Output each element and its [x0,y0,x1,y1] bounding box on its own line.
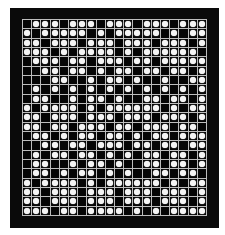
board-cell[interactable] [23,132,32,141]
board-cell[interactable] [97,141,106,150]
board-cell[interactable] [170,20,179,29]
board-cell[interactable] [41,57,50,66]
board-cell[interactable] [78,160,87,169]
board-cell[interactable] [69,169,78,178]
board-cell[interactable] [170,67,179,76]
board-cell[interactable] [170,132,179,141]
board-cell[interactable] [41,179,50,188]
board-cell[interactable] [124,151,133,160]
board-cell[interactable] [198,48,207,57]
board-cell[interactable] [143,104,152,113]
board-cell[interactable] [143,39,152,48]
board-cell[interactable] [32,169,41,178]
board-cell[interactable] [41,113,50,122]
board-cell[interactable] [115,197,124,206]
board-cell[interactable] [152,113,161,122]
board-cell[interactable] [106,57,115,66]
board-cell[interactable] [170,85,179,94]
board-cell[interactable] [78,104,87,113]
board-cell[interactable] [87,95,96,104]
board-cell[interactable] [23,151,32,160]
board-cell[interactable] [78,20,87,29]
board-cell[interactable] [179,39,188,48]
board-cell[interactable] [124,197,133,206]
board-cell[interactable] [124,85,133,94]
board-cell[interactable] [124,169,133,178]
board-cell[interactable] [124,57,133,66]
board-cell[interactable] [189,29,198,38]
board-cell[interactable] [69,48,78,57]
board-cell[interactable] [97,57,106,66]
board-cell[interactable] [97,188,106,197]
board-cell[interactable] [179,85,188,94]
board-cell[interactable] [124,39,133,48]
board-cell[interactable] [41,85,50,94]
board-cell[interactable] [124,188,133,197]
board-cell[interactable] [106,76,115,85]
board-cell[interactable] [97,104,106,113]
board-cell[interactable] [51,179,60,188]
board-cell[interactable] [189,76,198,85]
board-cell[interactable] [106,39,115,48]
board-cell[interactable] [78,67,87,76]
board-cell[interactable] [198,85,207,94]
board-cell[interactable] [198,207,207,216]
board-cell[interactable] [87,151,96,160]
board-cell[interactable] [143,207,152,216]
board-cell[interactable] [124,29,133,38]
game-board[interactable] [22,19,207,216]
board-cell[interactable] [51,123,60,132]
board-cell[interactable] [78,123,87,132]
board-cell[interactable] [143,197,152,206]
board-cell[interactable] [51,95,60,104]
board-cell[interactable] [78,95,87,104]
board-cell[interactable] [41,207,50,216]
board-cell[interactable] [161,197,170,206]
board-cell[interactable] [51,20,60,29]
board-cell[interactable] [133,132,142,141]
board-cell[interactable] [106,132,115,141]
board-cell[interactable] [152,169,161,178]
board-cell[interactable] [60,95,69,104]
board-cell[interactable] [106,95,115,104]
board-cell[interactable] [115,67,124,76]
board-cell[interactable] [32,39,41,48]
board-cell[interactable] [32,29,41,38]
board-cell[interactable] [41,48,50,57]
board-cell[interactable] [41,197,50,206]
board-cell[interactable] [78,197,87,206]
board-cell[interactable] [51,85,60,94]
board-cell[interactable] [23,29,32,38]
board-cell[interactable] [87,169,96,178]
board-cell[interactable] [189,48,198,57]
board-cell[interactable] [69,151,78,160]
board-cell[interactable] [23,57,32,66]
board-cell[interactable] [41,95,50,104]
board-cell[interactable] [23,188,32,197]
board-cell[interactable] [170,29,179,38]
board-cell[interactable] [60,39,69,48]
board-cell[interactable] [124,160,133,169]
board-cell[interactable] [60,76,69,85]
board-cell[interactable] [97,76,106,85]
board-cell[interactable] [23,76,32,85]
board-cell[interactable] [97,20,106,29]
board-cell[interactable] [124,104,133,113]
board-cell[interactable] [133,29,142,38]
board-cell[interactable] [87,132,96,141]
board-cell[interactable] [143,29,152,38]
board-cell[interactable] [115,95,124,104]
board-cell[interactable] [189,188,198,197]
board-cell[interactable] [60,57,69,66]
board-cell[interactable] [189,197,198,206]
board-cell[interactable] [133,39,142,48]
board-cell[interactable] [198,20,207,29]
board-cell[interactable] [161,207,170,216]
board-cell[interactable] [51,169,60,178]
board-cell[interactable] [78,151,87,160]
board-cell[interactable] [189,95,198,104]
board-cell[interactable] [170,197,179,206]
board-cell[interactable] [87,207,96,216]
board-cell[interactable] [115,141,124,150]
board-cell[interactable] [32,104,41,113]
